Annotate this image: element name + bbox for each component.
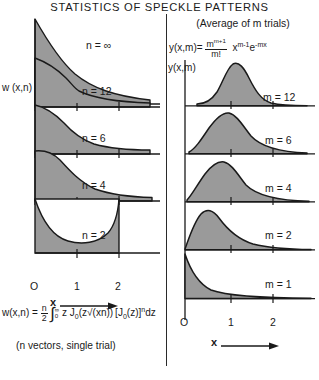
figure-title: STATISTICS OF SPECKLE PATTERNS [0, 1, 319, 13]
left-x-tick-2: 2 [115, 280, 121, 292]
right-x-tick-0: O [180, 316, 188, 328]
right-series-label-1: m = 6 [265, 134, 292, 146]
left-caption: (n vectors, single trial) [16, 340, 116, 351]
right-series-label-3: m = 2 [265, 229, 292, 241]
right-series-label-0: m = 12 [263, 91, 295, 103]
left-plot-stack [0, 16, 166, 306]
right-series-label-4: m = 1 [265, 278, 292, 290]
left-formula: w(x,n) = n2 ∫∞0 z J0(z√(xn)) [J0(z)]ndz [2, 304, 156, 323]
left-series-label-2: n = 6 [82, 132, 106, 144]
right-x-axis-label: x [211, 336, 217, 348]
left-x-tick-0: O [30, 280, 38, 292]
left-series-label-1: n = 12 [82, 85, 112, 97]
right-plot-stack [167, 56, 319, 324]
panel-n-4 [35, 151, 160, 205]
right-subtitle: (Average of m trials) [167, 18, 319, 29]
right-series-label-2: m = 4 [265, 182, 292, 194]
right-x-tick-1: 1 [228, 316, 234, 328]
panel-m-12 [185, 63, 315, 109]
speckle-statistics-figure: STATISTICS OF SPECKLE PATTERNS w (x,n) [0, 0, 319, 380]
right-column: (Average of m trials) y(x,m)= mm+1m! xm-… [167, 16, 319, 376]
panel-m-2 [185, 211, 315, 253]
panel-m-1 [185, 254, 315, 303]
panel-m-6 [185, 113, 315, 157]
left-series-label-4: n = 2 [82, 229, 106, 241]
left-series-label-3: n = 4 [82, 179, 106, 191]
panel-m-4 [185, 162, 315, 205]
left-x-tick-1: 1 [74, 280, 80, 292]
left-series-label-0: n = ∞ [86, 39, 111, 51]
right-x-axis-arrow [221, 342, 281, 352]
right-x-tick-2: 2 [270, 316, 276, 328]
